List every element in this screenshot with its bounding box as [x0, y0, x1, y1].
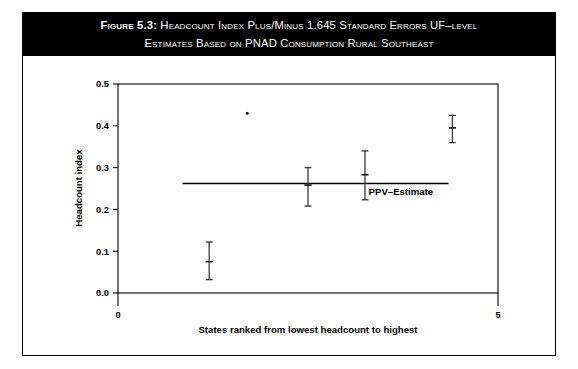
- y-axis-title: Headcount index: [73, 149, 84, 227]
- data-point: [246, 112, 249, 115]
- y-tick-label: 0.5: [96, 78, 109, 89]
- y-tick-label: 0.0: [96, 287, 109, 298]
- x-axis-title: States ranked from lowest headcount to h…: [198, 324, 418, 335]
- plot-area: 0.00.10.20.30.40.5 05 Headcount index St…: [0, 0, 578, 369]
- x-tick-label: 5: [495, 309, 500, 320]
- data-point: [449, 115, 456, 142]
- point-marker: [246, 112, 249, 115]
- chart-svg: 0.00.10.20.30.40.5 05 Headcount index St…: [0, 0, 578, 369]
- y-tick-label: 0.2: [96, 204, 109, 215]
- ppv-estimate-label: PPV–Estimate: [369, 186, 434, 197]
- x-tick-label: 0: [115, 309, 120, 320]
- data-point: [304, 168, 311, 206]
- figure-container: Figure 5.3: Headcount Index Plus/Minus 1…: [0, 0, 578, 369]
- x-axis: 05: [115, 293, 500, 320]
- data-point: [361, 151, 368, 200]
- data-point: [206, 242, 213, 280]
- y-tick-label: 0.3: [96, 162, 109, 173]
- y-tick-label: 0.1: [96, 246, 109, 257]
- y-tick-label: 0.4: [96, 120, 110, 131]
- y-axis: 0.00.10.20.30.40.5: [96, 78, 118, 298]
